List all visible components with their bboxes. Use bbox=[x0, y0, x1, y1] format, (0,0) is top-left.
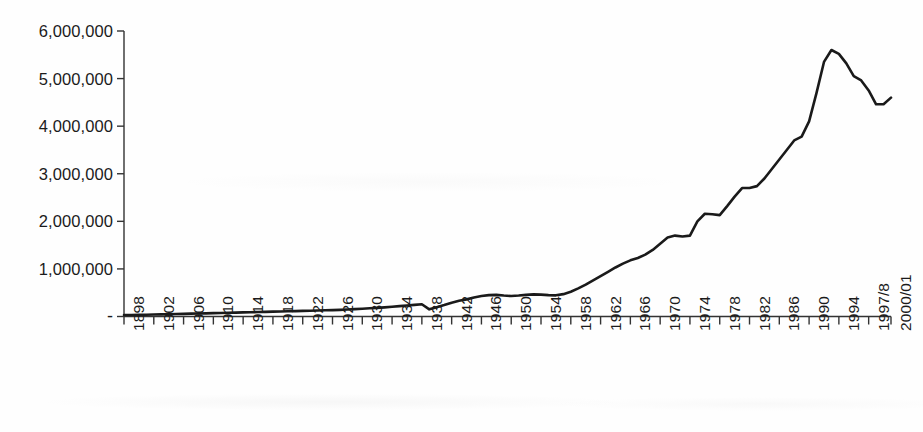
x-axis-tick-label: 1958 bbox=[577, 296, 595, 331]
y-axis-tick-label: 1,000,000 bbox=[39, 259, 113, 278]
x-axis-tick-label: 1974 bbox=[696, 296, 714, 331]
line-chart-plot bbox=[0, 0, 923, 432]
y-axis-tick-label: 5,000,000 bbox=[39, 69, 113, 88]
x-axis-tick-label: 1994 bbox=[845, 296, 863, 331]
x-axis-tick-label: 2000/01 bbox=[897, 274, 915, 331]
x-axis-tick-label: 1902 bbox=[160, 296, 178, 331]
x-axis-tick-label: 1898 bbox=[130, 296, 148, 331]
y-axis-tick-label: - bbox=[107, 305, 113, 326]
x-axis-tick-label: 1914 bbox=[249, 296, 267, 331]
chart-page: -1,000,0002,000,0003,000,0004,000,0005,0… bbox=[0, 0, 923, 432]
x-axis-tick-label: 1986 bbox=[785, 296, 803, 331]
x-axis-tick-label: 1982 bbox=[756, 296, 774, 331]
axis-group bbox=[124, 31, 891, 317]
y-axis-ticks bbox=[117, 31, 124, 317]
x-axis-tick-label: 1910 bbox=[219, 296, 237, 331]
x-axis-tick-label: 1962 bbox=[607, 296, 625, 331]
x-axis-tick-label: 1966 bbox=[636, 296, 654, 331]
x-axis-tick-label: 1997/8 bbox=[875, 282, 893, 330]
x-axis-tick-label: 1934 bbox=[398, 296, 416, 331]
x-axis-tick-label: 1930 bbox=[368, 296, 386, 331]
x-axis-tick-label: 1922 bbox=[309, 296, 327, 331]
x-axis-tick-label: 1990 bbox=[815, 296, 833, 331]
x-axis-tick-label: 1942 bbox=[458, 296, 476, 331]
x-axis-tick-label: 1950 bbox=[517, 296, 535, 331]
x-axis-tick-label: 1970 bbox=[666, 296, 684, 331]
x-axis-tick-label: 1918 bbox=[279, 296, 297, 331]
x-axis-tick-label: 1946 bbox=[487, 296, 505, 331]
x-axis-tick-label: 1954 bbox=[547, 296, 565, 331]
data-series-line bbox=[124, 50, 891, 315]
x-axis-ticks bbox=[124, 317, 891, 325]
y-axis-tick-label: 6,000,000 bbox=[39, 22, 113, 41]
y-axis-tick-label: 3,000,000 bbox=[39, 164, 113, 183]
y-axis-tick-label: 2,000,000 bbox=[39, 212, 113, 231]
y-axis-tick-label: 4,000,000 bbox=[39, 117, 113, 136]
x-axis-tick-label: 1938 bbox=[428, 296, 446, 331]
x-axis-tick-label: 1906 bbox=[190, 296, 208, 331]
x-axis-tick-label: 1978 bbox=[726, 296, 744, 331]
x-axis-tick-label: 1926 bbox=[339, 296, 357, 331]
